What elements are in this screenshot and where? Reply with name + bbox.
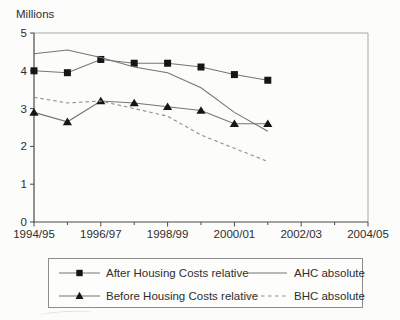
- y-tick-label: 1: [21, 178, 27, 190]
- series-marker-after-housing-costs-relative: [231, 71, 238, 78]
- y-tick-label: 0: [21, 216, 27, 228]
- x-tick-label: 2002/03: [280, 228, 322, 240]
- line-chart: 0123451994/951996/971998/992000/012002/0…: [0, 0, 400, 252]
- chart-page: Millions 0123451994/951996/971998/992000…: [0, 0, 400, 320]
- legend-row-after-housing: After Housing Costs relative AHC absolut…: [58, 261, 362, 284]
- legend-swatch-ahc-absolute: [246, 267, 288, 279]
- y-tick-label: 2: [21, 140, 27, 152]
- x-tick-label: 2004/05: [347, 228, 389, 240]
- x-tick-label: 1996/97: [80, 228, 122, 240]
- legend-label-bhc-absolute: BHC absolute: [294, 290, 365, 302]
- legend-row-before-housing: Before Housing Costs relative BHC absolu…: [58, 284, 362, 307]
- legend-label-bhc-relative: Before Housing Costs relative: [106, 290, 246, 302]
- x-tick-label: 1998/99: [147, 228, 189, 240]
- axes: [34, 33, 368, 222]
- legend-label-ahc-absolute: AHC absolute: [294, 267, 365, 279]
- series-line-bhc-absolute: [34, 97, 268, 161]
- legend-swatch-ahc-relative: [58, 267, 101, 279]
- y-tick-label: 3: [21, 103, 27, 115]
- legend-label-ahc-relative: After Housing Costs relative: [106, 267, 246, 279]
- plot-border: [34, 33, 368, 222]
- legend-sample-after-housing-costs-relative: [58, 267, 101, 279]
- legend-sample-before-housing-costs-relative: [58, 290, 101, 302]
- series-marker-after-housing-costs-relative: [64, 69, 71, 76]
- x-tick-label: 1994/95: [13, 228, 55, 240]
- series-marker-after-housing-costs-relative: [31, 67, 38, 74]
- series-marker-before-housing-costs-relative: [29, 108, 38, 116]
- y-tick-label: 5: [21, 27, 27, 39]
- legend-box: After Housing Costs relative AHC absolut…: [48, 258, 363, 308]
- y-tick-label: 4: [21, 65, 28, 77]
- scan-artifact: [40, 310, 92, 319]
- series-marker-after-housing-costs-relative: [164, 60, 171, 67]
- series-marker-after-housing-costs-relative: [264, 77, 271, 84]
- legend-swatch-bhc-relative: [58, 290, 101, 302]
- series-marker-after-housing-costs-relative: [131, 60, 138, 67]
- series-marker-after-housing-costs-relative: [198, 64, 205, 71]
- x-tick-label: 2000/01: [214, 228, 256, 240]
- legend-sample-ahc-absolute: [246, 267, 288, 279]
- legend-swatch-bhc-absolute: [246, 290, 288, 302]
- legend-sample-bhc-absolute: [246, 290, 288, 302]
- series-line-ahc-absolute: [34, 50, 268, 131]
